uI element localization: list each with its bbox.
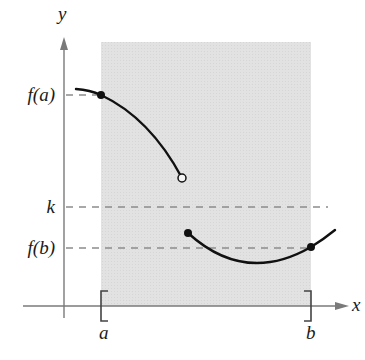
x-axis-label: x [351,294,361,315]
label-fa: f(a) [28,84,55,106]
point-jump-filled [184,229,192,237]
ivt-diagram: y x f(a) k f(b) a b [0,0,365,360]
label-fb: f(b) [28,237,55,259]
y-axis-arrow-icon [60,37,68,50]
interval-shading [101,42,311,306]
point-jump-open [178,174,186,182]
label-a: a [99,322,109,343]
label-b: b [306,322,316,343]
point-fb-filled [307,243,315,251]
y-axis-label: y [56,3,67,24]
label-k: k [47,196,56,217]
point-fa-filled [97,91,105,99]
x-axis-arrow-icon [335,302,349,310]
